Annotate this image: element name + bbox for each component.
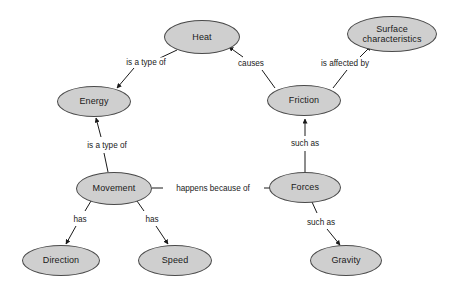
- concept-map-canvas: Heat Surface characteristics Energy Fric…: [0, 0, 462, 292]
- edge-label-heat-energy: is a type of: [125, 58, 167, 67]
- node-surface-line-1: Surface: [376, 24, 408, 34]
- node-speed-label: Speed: [159, 255, 192, 266]
- edge-label-movement-speed: has: [144, 215, 159, 224]
- node-surface-characteristics-label: Surface characteristics: [359, 24, 424, 45]
- node-gravity-label: Gravity: [328, 255, 363, 266]
- edge-label-forces-friction: such as: [290, 139, 320, 148]
- edge-label-friction-surface: is affected by: [320, 59, 370, 68]
- node-forces[interactable]: Forces: [269, 172, 341, 203]
- edge-friction-heat: [229, 47, 275, 88]
- node-energy-label: Energy: [76, 96, 111, 107]
- node-surface-characteristics[interactable]: Surface characteristics: [347, 16, 437, 52]
- edge-label-movement-forces: happens because of: [175, 184, 251, 193]
- edge-heat-energy: [117, 50, 177, 88]
- node-movement[interactable]: Movement: [76, 172, 152, 205]
- node-heat[interactable]: Heat: [164, 20, 240, 54]
- node-energy[interactable]: Energy: [57, 86, 131, 117]
- node-speed[interactable]: Speed: [138, 245, 212, 276]
- node-direction-label: Direction: [40, 255, 82, 266]
- edge-label-friction-heat: causes: [237, 59, 265, 68]
- node-movement-label: Movement: [90, 183, 139, 194]
- edge-label-forces-gravity: such as: [306, 218, 336, 227]
- node-direction[interactable]: Direction: [22, 245, 100, 276]
- node-heat-label: Heat: [189, 32, 214, 43]
- edge-label-movement-direction: has: [72, 215, 87, 224]
- node-friction-label: Friction: [286, 95, 322, 106]
- node-gravity[interactable]: Gravity: [310, 245, 382, 276]
- node-friction[interactable]: Friction: [267, 85, 341, 116]
- node-forces-label: Forces: [288, 182, 322, 193]
- node-surface-line-2: characteristics: [362, 34, 421, 44]
- edge-label-movement-energy: is a type of: [86, 141, 128, 150]
